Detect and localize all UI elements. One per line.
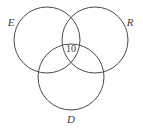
set-label-d: D — [66, 113, 75, 125]
set-label-r: R — [126, 16, 134, 28]
venn-diagram-canvas: E R D 10 — [0, 0, 143, 131]
region-value-intersection-all: 10 — [66, 43, 76, 54]
set-label-e: E — [7, 16, 15, 28]
venn-diagram-figure: E R D 10 — [0, 0, 143, 131]
